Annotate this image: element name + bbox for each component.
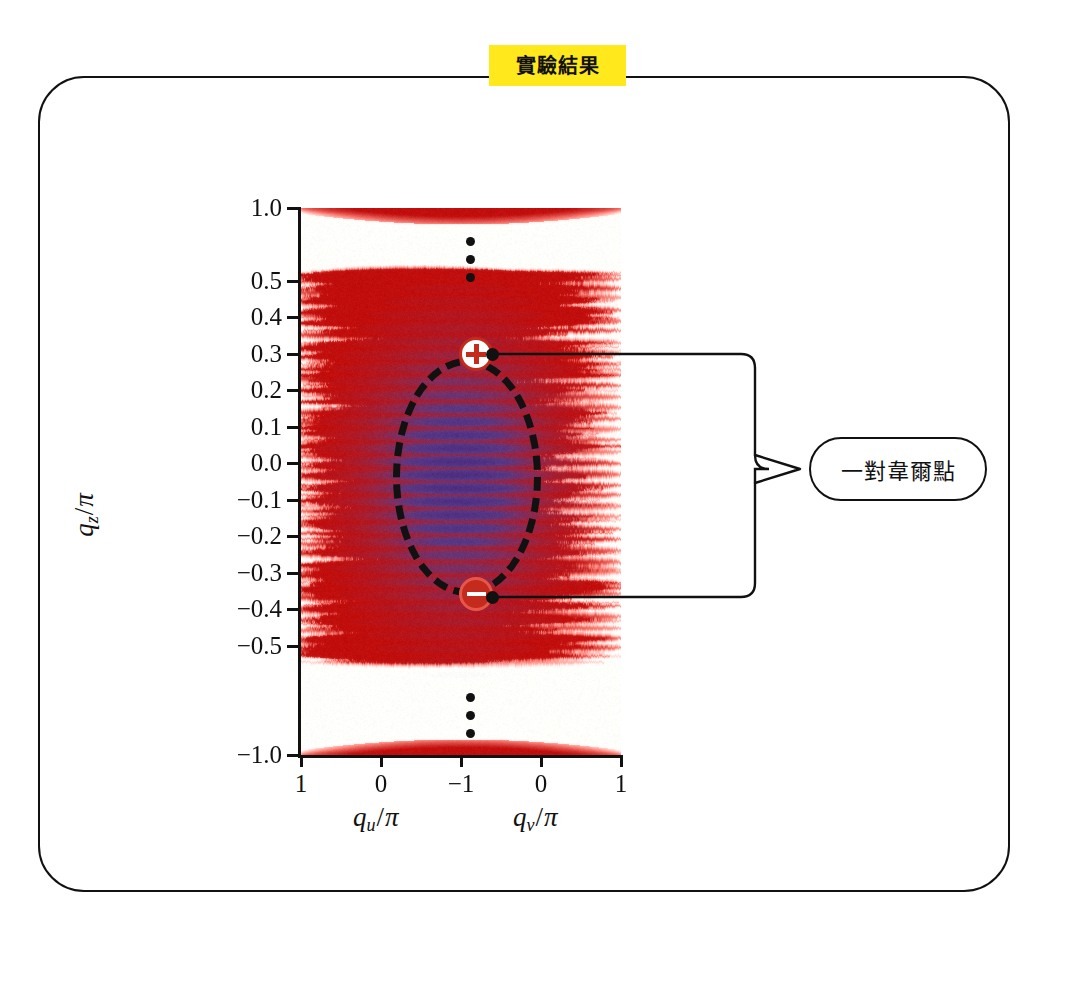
y-tick-label: −0.3 bbox=[237, 560, 282, 585]
y-tick-label: −0.2 bbox=[237, 523, 282, 548]
y-tick-mark bbox=[287, 280, 298, 283]
y-tick-label: −0.4 bbox=[237, 596, 282, 621]
x-tick-mark bbox=[300, 755, 303, 767]
y-tick-label: −1.0 bbox=[237, 742, 282, 767]
y-tick-mark bbox=[287, 462, 298, 465]
x-tick-label: 1 bbox=[593, 771, 649, 796]
y-tick-label: 0.1 bbox=[251, 414, 282, 439]
axis-break-dots-top bbox=[466, 237, 475, 282]
x-axis-title-left: qu/π bbox=[353, 802, 399, 836]
y-tick-label: −0.5 bbox=[237, 633, 282, 658]
axis-break-dots-bottom bbox=[466, 693, 475, 738]
y-tick-label: 0.2 bbox=[251, 377, 282, 402]
weyl-region-ellipse bbox=[393, 358, 541, 596]
leader-dot-minus bbox=[486, 591, 499, 604]
y-tick-mark bbox=[287, 535, 298, 538]
plot-area: 1.00.50.40.30.20.10.0−0.1−0.2−0.3−0.4−0.… bbox=[0, 0, 1065, 983]
y-tick-mark bbox=[287, 353, 298, 356]
x-tick-mark bbox=[460, 755, 463, 767]
x-axis-title-right: qv/π bbox=[513, 802, 558, 836]
x-tick-mark bbox=[620, 755, 623, 767]
y-tick-label: 0.3 bbox=[251, 341, 282, 366]
y-tick-mark bbox=[287, 499, 298, 502]
figure-stage: 實驗結果 1.00.50.40.30.20.10.0−0.1−0.2−0.3−0… bbox=[0, 0, 1065, 983]
x-tick-label: 0 bbox=[513, 771, 569, 796]
callout-label: 一對韋爾點 bbox=[841, 453, 956, 485]
title-badge-label: 實驗結果 bbox=[516, 56, 600, 76]
y-tick-label: −0.1 bbox=[237, 487, 282, 512]
y-tick-label: 1.0 bbox=[251, 195, 282, 220]
y-tick-mark bbox=[287, 608, 298, 611]
callout-weyl-pair: 一對韋爾點 bbox=[809, 437, 987, 501]
x-tick-mark bbox=[380, 755, 383, 767]
y-tick-label: 0.4 bbox=[251, 304, 282, 329]
y-tick-mark bbox=[287, 389, 298, 392]
y-tick-label: 0.0 bbox=[251, 450, 282, 475]
leader-dot-plus bbox=[486, 348, 499, 361]
y-tick-mark bbox=[287, 207, 298, 210]
y-tick-mark bbox=[287, 426, 298, 429]
x-tick-label: 1 bbox=[273, 771, 329, 796]
y-tick-label: 0.5 bbox=[251, 268, 282, 293]
x-tick-label: −1 bbox=[433, 771, 489, 796]
y-tick-mark bbox=[287, 645, 298, 648]
minus-icon bbox=[467, 592, 486, 597]
y-axis-line bbox=[298, 207, 301, 758]
x-tick-mark bbox=[540, 755, 543, 767]
y-tick-mark bbox=[287, 316, 298, 319]
x-tick-label: 0 bbox=[353, 771, 409, 796]
y-tick-mark bbox=[287, 572, 298, 575]
plus-icon bbox=[466, 344, 486, 364]
y-tick-mark bbox=[287, 754, 298, 757]
y-axis-title: qz/π bbox=[69, 415, 103, 615]
title-badge: 實驗結果 bbox=[489, 45, 626, 86]
